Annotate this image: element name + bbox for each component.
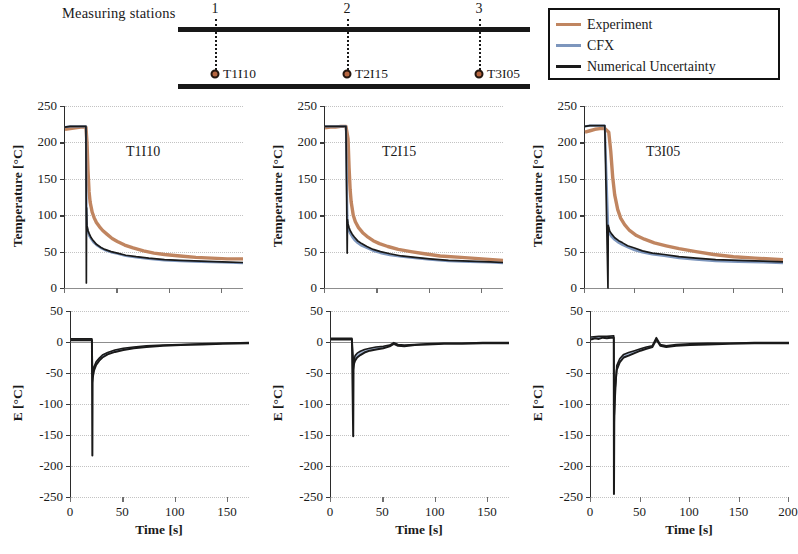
x-tick-mark (330, 497, 331, 502)
x-tick-label: 200 (778, 504, 798, 520)
y-axis-title: E [°C] (530, 310, 546, 496)
error-band (71, 339, 249, 456)
series-layer (325, 106, 503, 288)
error-band (591, 336, 789, 494)
x-tick-mark (481, 288, 482, 293)
y-tick-mark (320, 252, 325, 253)
y-tick-mark (66, 342, 71, 343)
station-dotted-line-3 (479, 19, 481, 74)
chart-panel-E-T3I05: -250-200-150-100-50050050100150200E [°C]… (528, 305, 780, 537)
y-tick-mark (60, 215, 65, 216)
station-dotted-line-1 (215, 19, 217, 74)
y-tick-mark (326, 311, 331, 312)
legend-item-0: Experiment (556, 14, 772, 35)
x-tick-mark (435, 497, 436, 502)
x-tick-label: 150 (729, 504, 749, 520)
x-tick-mark (590, 497, 591, 502)
series-layer (585, 106, 783, 288)
y-tick-mark (66, 404, 71, 405)
gridline (331, 497, 509, 499)
y-tick-mark (66, 435, 71, 436)
x-tick-label: 50 (633, 504, 646, 520)
x-tick-mark (634, 288, 635, 293)
panel-title-T2I15: T2I15 (382, 144, 416, 160)
series-line-error-cfx (71, 340, 249, 455)
legend-label: CFX (587, 38, 614, 54)
plot-area (70, 311, 249, 497)
x-tick-mark (376, 288, 377, 293)
y-tick-mark (320, 215, 325, 216)
x-tick-mark (221, 288, 222, 293)
y-tick-mark (66, 466, 71, 467)
y-tick-mark (580, 106, 585, 107)
plot-area (330, 311, 509, 497)
station-label-T2I15: T2I15 (355, 66, 388, 82)
y-tick-mark (586, 435, 591, 436)
station-number-2: 2 (344, 1, 351, 17)
legend-swatch-icon (556, 23, 581, 26)
x-tick-label: 100 (165, 504, 185, 520)
y-tick-mark (580, 215, 585, 216)
y-tick-mark (320, 179, 325, 180)
station-dotted-line-2 (347, 19, 349, 74)
plot-area (590, 311, 789, 497)
y-axis-title: Temperature [°C] (270, 105, 286, 287)
y-tick-mark (580, 142, 585, 143)
x-tick-mark (324, 288, 325, 293)
x-tick-mark (689, 497, 690, 502)
y-axis-title: Temperature [°C] (10, 105, 26, 287)
x-axis-title: Time [s] (70, 522, 248, 538)
x-tick-mark (227, 497, 228, 502)
chart-panel-E-T1I10: -250-200-150-100-50050050100150E [°C]Tim… (8, 305, 240, 537)
series-layer (591, 311, 789, 497)
x-tick-mark (683, 288, 684, 293)
x-tick-mark (584, 288, 585, 293)
legend-item-2: Numerical Uncertainty (556, 56, 772, 77)
y-tick-mark (66, 311, 71, 312)
chart-panel-T1I10: 050100150200250Temperature [°C]T1I10 (8, 100, 234, 328)
x-tick-label: 150 (477, 504, 497, 520)
y-tick-mark (586, 373, 591, 374)
x-axis-title: Time [s] (590, 522, 788, 538)
x-tick-label: 0 (327, 504, 334, 520)
legend-item-1: CFX (556, 35, 772, 56)
series-line-error-cfx (591, 338, 789, 494)
y-tick-mark (60, 106, 65, 107)
y-tick-mark (586, 404, 591, 405)
y-tick-mark (326, 342, 331, 343)
measuring-stations-schematic: Measuring stations 1T1I102T2I153T3I05 (0, 0, 560, 95)
series-layer (65, 106, 243, 288)
y-axis-title: E [°C] (270, 310, 286, 496)
y-tick-mark (580, 252, 585, 253)
y-tick-mark (60, 142, 65, 143)
x-tick-mark (782, 288, 783, 293)
y-axis-title: Temperature [°C] (530, 105, 546, 287)
panel-title-T1I10: T1I10 (126, 144, 160, 160)
x-tick-mark (169, 288, 170, 293)
schematic-title: Measuring stations (62, 5, 176, 22)
y-tick-mark (326, 466, 331, 467)
y-tick-mark (326, 373, 331, 374)
station-label-T1I10: T1I10 (223, 66, 256, 82)
y-tick-mark (586, 342, 591, 343)
y-tick-mark (586, 466, 591, 467)
x-tick-label: 100 (679, 504, 699, 520)
x-tick-mark (429, 288, 430, 293)
x-axis-title: Time [s] (330, 522, 508, 538)
gridline (71, 497, 249, 499)
x-tick-mark (116, 288, 117, 293)
panel-title-T3I05: T3I05 (646, 144, 680, 160)
x-tick-mark (175, 497, 176, 502)
uncertainty-band (585, 126, 783, 288)
station-sensor-dot-1 (211, 70, 220, 79)
x-tick-mark (122, 497, 123, 502)
x-tick-mark (70, 497, 71, 502)
y-tick-mark (66, 373, 71, 374)
plot-area (324, 106, 503, 288)
legend-label: Experiment (587, 17, 652, 33)
series-line-error-band-upper (331, 338, 509, 362)
x-tick-mark (487, 497, 488, 502)
x-tick-mark (640, 497, 641, 502)
pipe-wall-top (178, 27, 530, 32)
